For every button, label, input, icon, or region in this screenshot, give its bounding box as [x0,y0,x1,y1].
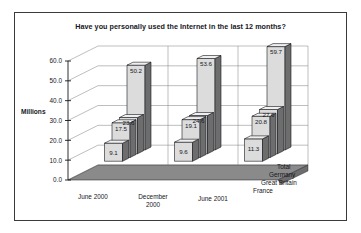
series-label-france: France [253,187,273,194]
value-label-great-britain-june-2000: 17.5 [112,125,130,132]
series-label-germany: Germany [269,171,295,178]
value-label-germany-june-2001: 27.6 [260,111,278,118]
value-label-france-june-2001: 11.3 [245,145,263,152]
y-tick-label-0: 0.0 [36,176,62,183]
value-label-total-december-2000: 53.6 [197,60,215,67]
value-label-france-december-2000: 9.6 [175,148,193,155]
x-category-label-december-2000: December 2000 [125,193,181,209]
series-label-great-britain: Great Britain [261,179,297,186]
value-label-great-britain-december-2000: 19.1 [182,122,200,129]
chart-frame: Have you personally used the Internet in… [14,12,347,221]
y-axis-title: Millions [21,108,46,115]
y-tick-label-50: 50.0 [36,77,62,84]
value-label-france-june-2000: 9.1 [105,149,123,156]
y-tick-label-10: 10.0 [36,157,62,164]
x-category-label-june-2000: June 2000 [65,193,121,201]
value-label-great-britain-june-2001: 20.8 [252,118,270,125]
y-tick-label-60: 60.0 [36,57,62,64]
y-tick-label-20: 20.0 [36,137,62,144]
series-label-total: Total [277,163,291,170]
value-label-total-june-2000: 50.2 [127,67,145,74]
y-tick-label-40: 40.0 [36,97,62,104]
chart-svg [15,13,348,222]
x-category-label-june-2001: June 2001 [187,195,239,203]
value-label-total-june-2001: 59.7 [267,48,285,55]
y-tick-label-30: 30.0 [36,117,62,124]
bar-chart-plot-area [15,13,348,222]
